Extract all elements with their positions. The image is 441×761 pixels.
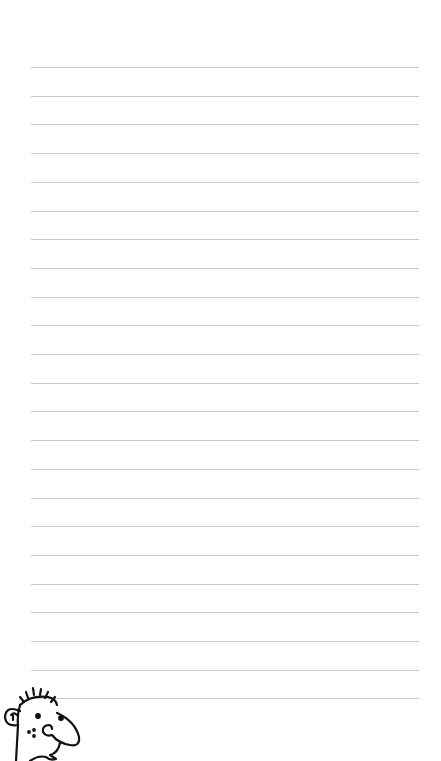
ruled-line	[31, 698, 419, 699]
ruled-line	[31, 182, 419, 183]
ruled-line	[31, 555, 419, 556]
ruled-line	[31, 469, 419, 470]
ruled-line	[31, 526, 419, 527]
ruled-line	[31, 584, 419, 585]
ruled-line	[31, 354, 419, 355]
ruled-line	[31, 612, 419, 613]
cartoon-face-icon	[0, 675, 85, 761]
ruled-line	[31, 96, 419, 97]
ruled-line	[31, 440, 419, 441]
ruled-line	[31, 411, 419, 412]
ruled-line	[31, 325, 419, 326]
ruled-line	[31, 268, 419, 269]
ruled-line	[31, 239, 419, 240]
ruled-line	[31, 153, 419, 154]
ruled-line	[31, 383, 419, 384]
ruled-line	[31, 211, 419, 212]
ruled-line	[31, 670, 419, 671]
ruled-line	[31, 297, 419, 298]
ruled-line	[31, 67, 419, 68]
ruled-line	[31, 498, 419, 499]
ruled-line	[31, 124, 419, 125]
ruled-line	[31, 641, 419, 642]
